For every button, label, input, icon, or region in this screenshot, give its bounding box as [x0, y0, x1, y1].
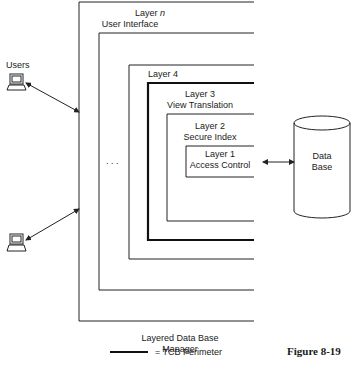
figure-label: Figure 8-19 — [287, 345, 341, 357]
layer-n-title-prefix: Layer — [135, 8, 158, 18]
database-label-line1: Data — [294, 151, 350, 162]
layer-2-title: Layer 2 — [175, 121, 245, 132]
layer-n-title-italic: n — [160, 8, 165, 18]
layer-n-title: Layer n — [110, 8, 190, 19]
user-top-arrow — [26, 83, 79, 112]
layer-3-title: Layer 3 — [160, 89, 240, 100]
layer-1-title: Layer 1 — [186, 149, 254, 160]
database-label-line2: Base — [294, 162, 350, 173]
users-label: Users — [6, 60, 30, 71]
layer-n-subtitle: User Interface — [95, 19, 165, 30]
terminal-icon-bottom — [7, 234, 26, 251]
legend-tcb-text: = TCB Perimeter — [155, 347, 222, 358]
user-bottom-arrow — [26, 209, 79, 240]
layer-2-subtitle: Secure Index — [175, 132, 245, 143]
diagram-canvas — [0, 0, 357, 381]
layer-1-subtitle: Access Control — [186, 160, 254, 171]
layers-ellipsis: . . . — [106, 156, 119, 167]
layer-3-subtitle: View Translation — [160, 100, 240, 111]
layer-4-title: Layer 4 — [148, 69, 178, 80]
manager-label-line1: Layered Data Base — [125, 333, 235, 344]
terminal-icon-top — [7, 74, 26, 90]
